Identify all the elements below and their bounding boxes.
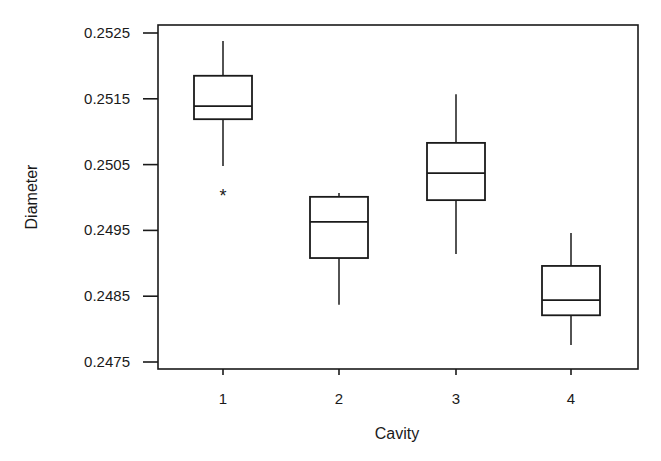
box-cavity-4 — [542, 233, 600, 345]
y-tick-label: 0.2475 — [84, 353, 130, 370]
y-axis: 0.25250.25150.25050.24950.24850.2475 — [84, 24, 158, 370]
box-cavity-3 — [427, 94, 485, 254]
y-tick-label: 0.2485 — [84, 287, 130, 304]
box-cavity-1: * — [194, 41, 252, 206]
x-tick-label: 4 — [567, 390, 575, 407]
box-series: * — [194, 41, 600, 345]
x-axis-title: Cavity — [375, 425, 419, 442]
x-tick-label: 3 — [452, 390, 460, 407]
boxplot-chart: 0.25250.25150.25050.24950.24850.2475 123… — [0, 0, 661, 461]
x-tick-label: 1 — [219, 390, 227, 407]
y-tick-label: 0.2515 — [84, 90, 130, 107]
y-tick-label: 0.2525 — [84, 24, 130, 41]
y-axis-title: Diameter — [23, 164, 40, 230]
outlier-marker-icon: * — [219, 186, 226, 206]
y-tick-label: 0.2495 — [84, 221, 130, 238]
iqr-box — [310, 197, 368, 258]
iqr-box — [427, 143, 485, 200]
x-tick-label: 2 — [335, 390, 343, 407]
x-axis: 1234 — [219, 369, 575, 407]
y-tick-label: 0.2505 — [84, 156, 130, 173]
iqr-box — [194, 76, 252, 119]
box-cavity-2 — [310, 193, 368, 305]
iqr-box — [542, 266, 600, 315]
